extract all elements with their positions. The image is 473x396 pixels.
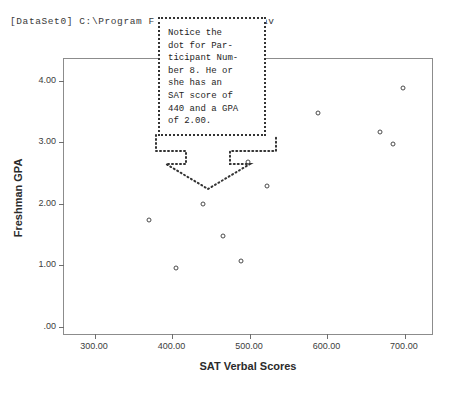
x-axis-tick (172, 334, 173, 339)
x-axis-tick-label: 400.00 (158, 341, 186, 351)
x-axis-tick (250, 334, 251, 339)
y-axis-tick-label: 1.00 (38, 259, 56, 269)
annotation-callout-box: Notice the dot for Par- ticipant Num- be… (158, 17, 266, 136)
x-axis-tick (405, 334, 406, 339)
data-point (401, 85, 406, 90)
y-axis-tick-label: 2.00 (38, 198, 56, 208)
y-axis-tick-label: 3.00 (38, 136, 56, 146)
data-point (147, 218, 152, 223)
callout-arrow-icon (150, 131, 280, 193)
data-point (316, 111, 321, 116)
data-point (174, 266, 179, 271)
data-point (238, 258, 243, 263)
y-axis-tick-label: 4.00 (38, 75, 56, 85)
annotation-callout-text: Notice the dot for Par- ticipant Num- be… (168, 27, 259, 128)
y-axis-tick (59, 327, 64, 328)
figure-caption (0, 381, 473, 395)
data-point (220, 233, 225, 238)
x-axis-tick-label: 500.00 (235, 341, 263, 351)
y-axis-tick (59, 142, 64, 143)
y-axis-title: Freshman GPA (12, 159, 24, 238)
y-axis-tick-label: .00 (43, 321, 56, 331)
y-axis-tick (59, 204, 64, 205)
x-axis-tick (95, 334, 96, 339)
x-axis-title: SAT Verbal Scores (63, 360, 433, 372)
x-axis-tick (327, 334, 328, 339)
participant-8-point (201, 201, 206, 206)
y-axis-tick (59, 81, 64, 82)
data-point (378, 129, 383, 134)
x-axis-tick-label: 600.00 (313, 341, 341, 351)
y-axis-tick (59, 265, 64, 266)
data-point (391, 141, 396, 146)
x-axis-tick-label: 300.00 (80, 341, 108, 351)
x-axis-tick-label: 700.00 (390, 341, 418, 351)
